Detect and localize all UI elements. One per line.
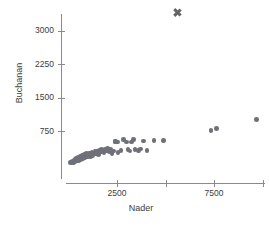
data-point xyxy=(107,149,112,154)
data-point xyxy=(119,148,124,153)
data-point xyxy=(80,153,85,158)
data-point xyxy=(88,154,93,159)
data-point xyxy=(87,153,92,158)
data-point xyxy=(76,157,81,162)
data-point xyxy=(70,159,75,164)
data-point xyxy=(91,151,96,156)
x-tick-7500 xyxy=(214,180,215,187)
x-tick-label-7500: 7500 xyxy=(194,189,234,198)
data-point xyxy=(95,150,100,155)
data-point xyxy=(115,140,120,145)
data-point xyxy=(73,157,78,162)
data-point xyxy=(85,154,90,159)
data-point xyxy=(152,138,157,143)
data-point xyxy=(83,156,88,161)
data-point xyxy=(74,156,79,161)
data-point xyxy=(68,160,73,165)
data-point xyxy=(81,154,86,159)
data-point xyxy=(141,139,146,144)
data-point xyxy=(83,153,88,158)
data-point xyxy=(136,148,141,153)
data-point xyxy=(85,155,90,160)
data-point xyxy=(111,149,116,154)
data-point xyxy=(145,148,150,153)
data-point xyxy=(138,147,143,152)
data-point xyxy=(124,140,129,145)
data-point xyxy=(100,149,105,154)
y-tick-750 xyxy=(58,131,65,132)
data-point xyxy=(75,159,80,164)
y-tick-label-3000: 3000 xyxy=(24,26,54,35)
y-tick-label-750: 750 xyxy=(24,127,54,136)
data-point xyxy=(99,147,104,152)
x-axis-title: Nader xyxy=(96,203,186,213)
y-tick-label-2250: 2250 xyxy=(24,60,54,69)
data-point xyxy=(80,157,85,162)
y-tick-1500 xyxy=(58,98,65,99)
data-point xyxy=(86,152,91,157)
data-point xyxy=(90,153,95,158)
data-point xyxy=(87,151,92,156)
data-point xyxy=(214,126,219,131)
data-point xyxy=(84,151,89,156)
data-point xyxy=(92,152,97,157)
data-point xyxy=(73,159,78,164)
data-point xyxy=(126,147,131,152)
data-point xyxy=(133,147,138,152)
data-point xyxy=(209,128,214,133)
data-point xyxy=(90,150,95,155)
data-point xyxy=(82,155,87,160)
data-point xyxy=(110,151,115,156)
data-point xyxy=(74,158,79,163)
data-point xyxy=(108,147,113,152)
data-point xyxy=(75,156,80,161)
data-point xyxy=(89,153,94,158)
data-point xyxy=(103,147,108,152)
data-point xyxy=(89,151,94,156)
data-point xyxy=(128,149,133,154)
data-point xyxy=(71,160,76,165)
data-point xyxy=(97,148,102,153)
data-point xyxy=(77,158,82,163)
scatter-plot-figure: 750150022503000 25007500 Buchanan Nader xyxy=(0,0,269,227)
data-point xyxy=(113,139,118,144)
data-point xyxy=(78,154,83,159)
data-point xyxy=(104,149,109,154)
data-point xyxy=(131,137,136,142)
data-point xyxy=(161,138,166,143)
data-point xyxy=(254,117,259,122)
data-point xyxy=(94,151,99,156)
x-tick-5000 xyxy=(166,180,167,187)
data-point xyxy=(121,137,126,142)
data-point xyxy=(78,157,83,162)
data-point xyxy=(72,158,77,163)
data-point xyxy=(94,149,99,154)
data-point xyxy=(84,154,89,159)
data-point xyxy=(129,140,134,145)
data-point xyxy=(96,152,101,157)
data-point xyxy=(69,160,74,165)
data-point xyxy=(79,156,84,161)
y-axis-title: Buchanan xyxy=(14,48,24,118)
outlier-marker xyxy=(173,8,182,17)
data-point xyxy=(116,150,121,155)
y-axis-line xyxy=(61,14,62,179)
x-tick-2500 xyxy=(117,180,118,187)
y-tick-label-1500: 1500 xyxy=(24,93,54,102)
data-point xyxy=(70,161,75,166)
y-tick-3000 xyxy=(58,31,65,32)
x-tick-label-2500: 2500 xyxy=(97,189,137,198)
data-point xyxy=(113,139,118,144)
data-point xyxy=(77,156,82,161)
x-tick-10000 xyxy=(263,180,264,187)
data-point xyxy=(93,149,98,154)
data-point xyxy=(102,151,107,156)
data-point xyxy=(98,150,103,155)
data-point xyxy=(72,160,77,165)
data-point xyxy=(82,152,87,157)
y-tick-2250 xyxy=(58,64,65,65)
data-point xyxy=(105,146,110,151)
data-point xyxy=(79,155,84,160)
data-point xyxy=(76,155,81,160)
